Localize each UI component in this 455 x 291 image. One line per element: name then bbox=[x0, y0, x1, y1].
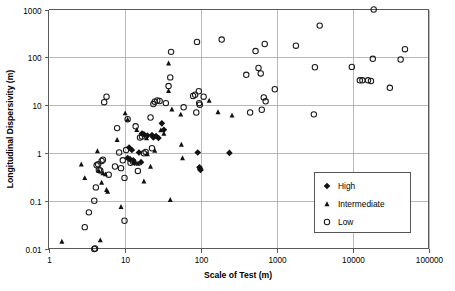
data-point-low bbox=[114, 125, 119, 130]
data-point-low bbox=[311, 112, 316, 117]
data-point-low bbox=[247, 110, 252, 115]
data-point-low bbox=[219, 37, 224, 42]
y-tick-label: 0.01 bbox=[26, 246, 42, 255]
data-point-intermediate bbox=[168, 197, 173, 202]
data-point-intermediate bbox=[95, 148, 100, 153]
plot-svg: 110100100010000100000 10001001010.10.01 … bbox=[0, 0, 455, 291]
data-point-low bbox=[259, 107, 264, 112]
data-point-intermediate bbox=[134, 127, 139, 132]
x-axis-title: Scale of Test (m) bbox=[204, 270, 272, 280]
data-point-low bbox=[112, 164, 117, 169]
data-point-intermediate bbox=[79, 162, 84, 167]
data-point-low bbox=[194, 110, 199, 115]
data-point-intermediate bbox=[98, 237, 103, 242]
x-tick-label: 10 bbox=[121, 256, 131, 265]
x-tick-label: 1000 bbox=[268, 256, 287, 265]
data-point-high bbox=[194, 149, 201, 156]
data-point-low bbox=[118, 165, 123, 170]
y-axis-tick-labels: 10001001010.10.01 bbox=[23, 7, 42, 255]
x-tick-label: 10000 bbox=[342, 256, 365, 265]
data-point-low bbox=[92, 198, 97, 203]
data-point-low bbox=[272, 87, 277, 92]
data-point-intermediate bbox=[230, 113, 235, 118]
data-point-intermediate bbox=[59, 239, 64, 244]
data-point-intermediate bbox=[216, 109, 221, 114]
legend-label-low: Low bbox=[338, 217, 354, 227]
data-point-low bbox=[101, 99, 106, 104]
data-point-high bbox=[159, 120, 166, 127]
x-tick-label: 1 bbox=[47, 256, 52, 265]
data-point-low bbox=[317, 23, 322, 28]
data-point-low bbox=[256, 65, 261, 70]
data-point-intermediate bbox=[119, 204, 124, 209]
data-point-intermediate bbox=[166, 61, 171, 66]
data-point-low bbox=[387, 85, 392, 90]
data-point-intermediate bbox=[123, 110, 128, 115]
data-point-low bbox=[116, 150, 121, 155]
legend-label-intermediate: Intermediate bbox=[338, 199, 385, 209]
data-point-low bbox=[120, 158, 125, 163]
data-point-low bbox=[82, 224, 87, 229]
data-point-low bbox=[122, 175, 127, 180]
data-point-low bbox=[293, 43, 298, 48]
data-point-low bbox=[168, 49, 173, 54]
data-point-low bbox=[370, 56, 375, 61]
data-point-low bbox=[163, 100, 168, 105]
data-point-low bbox=[402, 46, 407, 51]
data-point-low bbox=[194, 39, 199, 44]
y-tick-label: 0.1 bbox=[30, 198, 42, 207]
series-high bbox=[124, 120, 232, 173]
data-point-low bbox=[253, 48, 258, 53]
data-point-low bbox=[86, 210, 91, 215]
data-point-low bbox=[258, 71, 263, 76]
data-point-intermediate bbox=[207, 98, 212, 103]
data-point-intermediate bbox=[180, 155, 185, 160]
data-point-low bbox=[100, 157, 105, 162]
data-point-high bbox=[226, 150, 233, 157]
y-tick-label: 10 bbox=[32, 102, 42, 111]
y-tick-label: 1000 bbox=[23, 7, 42, 16]
data-point-low bbox=[262, 41, 267, 46]
y-axis-title: Longitudinal Dispersivity (m) bbox=[5, 70, 15, 189]
data-point-low bbox=[133, 124, 138, 129]
legend-label-high: High bbox=[338, 181, 356, 191]
data-point-intermediate bbox=[141, 179, 146, 184]
data-point-intermediate bbox=[179, 142, 184, 147]
data-point-low bbox=[93, 185, 98, 190]
data-point-intermediate bbox=[178, 112, 183, 117]
data-point-low bbox=[122, 218, 127, 223]
data-point-low bbox=[95, 162, 100, 167]
legend: HighIntermediateLow bbox=[315, 173, 411, 233]
data-point-low bbox=[148, 115, 153, 120]
data-point-low bbox=[168, 75, 173, 80]
data-point-low bbox=[312, 65, 317, 70]
x-axis-tick-labels: 110100100010000100000 bbox=[47, 256, 443, 265]
data-point-low bbox=[196, 89, 201, 94]
data-point-low bbox=[166, 83, 171, 88]
data-point-low bbox=[135, 168, 140, 173]
data-point-intermediate bbox=[169, 107, 174, 112]
series-intermediate bbox=[59, 61, 234, 244]
data-point-intermediate bbox=[148, 164, 153, 169]
data-point-low bbox=[244, 72, 249, 77]
x-tick-label: 100 bbox=[195, 256, 209, 265]
data-point-intermediate bbox=[115, 137, 120, 142]
data-point-intermediate bbox=[82, 175, 87, 180]
y-tick-label: 100 bbox=[28, 54, 42, 63]
data-point-intermediate bbox=[99, 180, 104, 185]
x-tick-label: 100000 bbox=[416, 256, 444, 265]
scatter-chart: 110100100010000100000 10001001010.10.01 … bbox=[0, 0, 455, 291]
y-tick-label: 1 bbox=[37, 150, 42, 159]
data-point-low bbox=[104, 94, 109, 99]
